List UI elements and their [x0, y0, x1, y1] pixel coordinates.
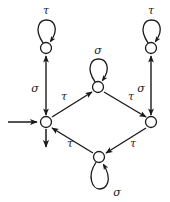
transition-right-to-bottom — [106, 128, 146, 153]
self-loop-upper-right-state — [143, 20, 160, 43]
transition-label-right-bottom: τ — [130, 137, 137, 150]
state-upper-left[interactable] — [41, 43, 52, 54]
self-loop-label-upper-left: τ — [43, 4, 50, 17]
state-upper-right[interactable] — [146, 43, 157, 54]
self-loop-upper-left-state — [38, 20, 55, 43]
state-initial[interactable] — [41, 117, 52, 128]
state-right[interactable] — [146, 117, 157, 128]
automaton-figure: τ σ τ σ σ σ τ τ τ τ — [0, 0, 170, 202]
self-loop-label-upper-right: τ — [148, 4, 155, 17]
transition-label-bottom-initial: τ — [67, 137, 74, 150]
transition-label-initial-upper-middle: τ — [61, 90, 68, 103]
transition-initial-to-upper-middle — [52, 92, 92, 117]
transition-upper-middle-to-right — [104, 92, 146, 117]
state-upper-middle[interactable] — [93, 82, 104, 93]
self-loop-label-upper-middle: σ — [94, 44, 102, 57]
transition-label-upper-right-right: σ — [137, 82, 145, 95]
state-bottom[interactable] — [94, 152, 105, 163]
self-loop-bottom-state — [91, 162, 108, 189]
self-loop-label-bottom: σ — [113, 186, 121, 199]
self-loop-upper-middle-state — [90, 59, 107, 82]
automaton-canvas: τ σ τ σ σ σ τ τ τ τ — [0, 0, 170, 202]
transition-label-initial-upper-left: σ — [31, 82, 39, 95]
transition-label-upper-middle-right: τ — [128, 90, 135, 103]
